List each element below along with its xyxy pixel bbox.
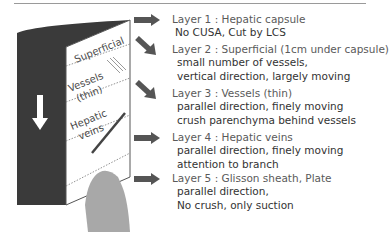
layer-desc: vertical direction, largely moving (177, 70, 350, 84)
layer-title: Layer 4 : Hepatic veins (172, 131, 293, 144)
layer-title: Layer 5 : Glisson sheath, Plate (172, 172, 332, 185)
arrow-right-icon (134, 13, 162, 27)
layer-desc: No CUSA, Cut by LCS (175, 26, 286, 40)
layer-title: Layer 3 : Vessels (thin) (172, 87, 292, 100)
layer-desc: crush parenchyma behind vessels (177, 114, 356, 128)
layer-desc: attention to branch (177, 158, 279, 172)
arrow-right-icon (134, 172, 162, 186)
layer-desc: No crush, only suction (177, 199, 294, 213)
layer-desc: small number of vessels, (177, 56, 308, 70)
layer-title: Layer 1 : Hepatic capsule (172, 13, 305, 26)
layer-desc: parallel direction, (177, 185, 269, 199)
arrow-down-right-icon (134, 36, 162, 56)
arrow-right-icon (134, 131, 162, 145)
layer-desc: parallel direction, finely moving (177, 144, 343, 158)
arrow-down-right-icon (134, 80, 162, 100)
liver-block-illustration: Superficial Vessels (thin) Hepatic veins (0, 0, 135, 232)
layer-desc: parallel direction, finely moving (177, 100, 343, 114)
layer-title: Layer 2 : Superficial (1cm under capsule… (172, 43, 389, 56)
